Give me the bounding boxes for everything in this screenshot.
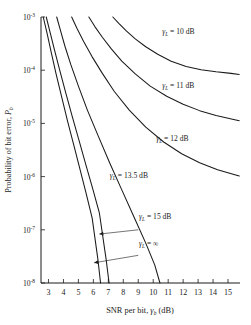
annotation--l-15-db: γL = 15 dB <box>139 212 171 222</box>
y-tick-label: 10-6 <box>23 172 35 182</box>
x-tick-label: 5 <box>76 288 80 297</box>
annotation-leaders <box>94 230 138 264</box>
annotation--l-11-db: γL = 11 dB <box>162 81 194 91</box>
y-tick-label: 10-4 <box>23 65 35 75</box>
x-axis-tick-labels: 3456789101112131415 <box>46 288 232 297</box>
x-tick-label: 11 <box>164 288 172 297</box>
y-tick-label: 10-5 <box>23 118 35 128</box>
annotation--l-10-db: γL = 10 dB <box>162 27 194 37</box>
x-tick-label: 10 <box>149 288 157 297</box>
y-axis-title: Probability of bit error, Pb <box>4 107 14 193</box>
leader-arrowhead <box>99 232 103 236</box>
y-tick-label: 10-7 <box>23 225 35 235</box>
x-tick-label: 13 <box>194 288 202 297</box>
x-tick-label: 14 <box>209 288 217 297</box>
x-tick-label: 8 <box>121 288 125 297</box>
x-tick-label: 3 <box>46 288 50 297</box>
chart-figure: 10-310-410-510-610-710-8 345678910111213… <box>0 0 251 325</box>
curve--l-10-db <box>113 17 239 74</box>
y-tick-label: 10-3 <box>23 12 35 22</box>
bit-error-probability-chart: 10-310-410-510-610-710-8 345678910111213… <box>0 0 251 325</box>
leader-arrowhead <box>94 260 98 264</box>
series-annotations: γL = 10 dBγL = 11 dBγL = 12 dBγL = 13.5 … <box>110 27 195 249</box>
svg-text:Probability of bit error, Pb: Probability of bit error, Pb <box>4 107 14 193</box>
y-axis-ticks <box>41 17 45 283</box>
x-tick-label: 9 <box>136 288 140 297</box>
annotation--l-12-db: γL = 12 dB <box>156 134 188 144</box>
x-tick-label: 4 <box>61 288 65 297</box>
x-tick-label: 15 <box>224 288 232 297</box>
x-tick-label: 12 <box>179 288 187 297</box>
leader-line <box>99 230 138 234</box>
leader-line <box>94 255 138 262</box>
annotation--l-: γL = ∞ <box>139 239 159 249</box>
y-axis-tick-labels: 10-310-410-510-610-710-8 <box>23 12 35 288</box>
annotation--l-13-5-db: γL = 13.5 dB <box>110 171 148 181</box>
curve--l-12-db <box>72 17 240 176</box>
svg-text:SNR per bit, γb (dB): SNR per bit, γb (dB) <box>106 306 174 316</box>
x-axis-title: SNR per bit, γb (dB) <box>106 306 174 316</box>
curve--l-15-db <box>46 17 109 283</box>
x-axis-ticks <box>48 279 228 283</box>
x-tick-label: 7 <box>106 288 110 297</box>
x-tick-label: 6 <box>91 288 95 297</box>
y-tick-label: 10-8 <box>23 278 35 288</box>
